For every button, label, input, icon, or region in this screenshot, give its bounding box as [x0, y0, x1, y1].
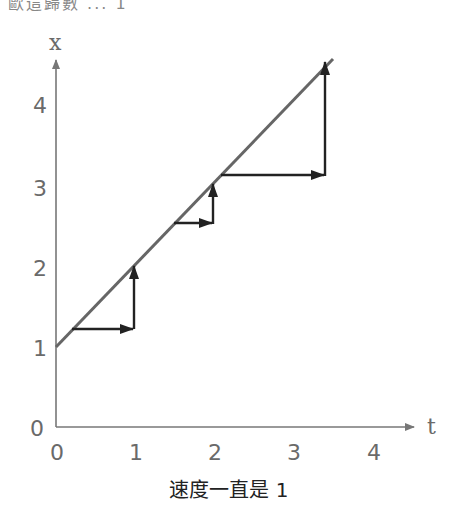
figure-caption: 速度一直是 1	[0, 474, 458, 503]
y-tick-label: 2	[33, 256, 47, 281]
position-line	[56, 59, 333, 347]
x-tick-label: 1	[129, 440, 143, 465]
velocity-diagram: x t 0 1 2 3 4 0 1 2 3 4	[0, 0, 458, 528]
x-tick-label: 4	[367, 440, 381, 465]
x-tick-label: 3	[287, 440, 301, 465]
x-axis-title: t	[427, 414, 436, 439]
x-tick-label: 0	[50, 440, 64, 465]
y-tick-label: 3	[33, 176, 47, 201]
y-axis-title: x	[49, 30, 62, 55]
x-tick-label: 2	[208, 440, 222, 465]
y-tick-label: 4	[33, 93, 47, 118]
y-tick-label: 0	[30, 416, 44, 441]
y-tick-label: 1	[33, 336, 47, 361]
